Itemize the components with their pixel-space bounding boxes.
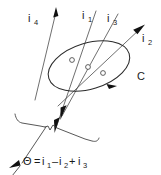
pierce-point-1	[70, 58, 75, 63]
equation-term1-base: i	[42, 155, 44, 167]
label-i4-base: i	[28, 12, 30, 24]
equation-term2-base: i	[59, 155, 61, 167]
ampere-law-figure: i 4 i 1 i 3 i 2 C Θ = i 1 – i 2 +	[0, 0, 161, 175]
equation-term1-sub: 1	[47, 161, 51, 170]
label-i4-sub: 4	[34, 18, 38, 27]
pierce-point-3	[101, 71, 106, 76]
wire-i4-arrowhead-icon	[53, 7, 58, 17]
wire-i2-line	[58, 28, 141, 106]
label-current-i3: i 3	[107, 12, 117, 27]
label-contour-C: C	[137, 70, 145, 82]
equation-op1: –	[52, 155, 59, 167]
label-current-i1: i 1	[82, 9, 92, 24]
label-i2-base: i	[142, 32, 144, 44]
label-current-i4: i 4	[28, 12, 38, 27]
equation-op2: +	[69, 155, 75, 167]
label-i2-sub: 2	[148, 38, 152, 47]
pierce-point-2	[86, 65, 91, 70]
wire-i3-arrowhead-icon	[60, 105, 66, 120]
label-i3-base: i	[107, 12, 109, 24]
equation-lhs: Θ	[23, 155, 32, 167]
surface-tear-notch	[45, 125, 99, 141]
label-i1-base: i	[82, 9, 84, 21]
surface-edge-upper-left	[15, 114, 45, 127]
wire-i2	[58, 25, 145, 107]
label-current-i2: i 2	[142, 32, 152, 47]
label-i1-sub: 1	[88, 15, 92, 24]
circulation-arrowhead-icon	[107, 84, 118, 89]
wire-i1-arrowhead-icon	[54, 117, 60, 133]
equation-term3-base: i	[78, 155, 80, 167]
figure-canvas: i 4 i 1 i 3 i 2 C Θ = i 1 – i 2 +	[0, 0, 161, 175]
equation-theta: Θ = i 1 – i 2 + i 3	[23, 155, 87, 170]
label-i3-sub: 3	[113, 18, 117, 27]
equation-equals: =	[34, 155, 40, 167]
wire-i1	[54, 11, 96, 133]
equation-term3-sub: 3	[83, 161, 87, 170]
surface-edge-lower-left-tail	[12, 166, 20, 175]
surface-normal-arrowhead-icon	[9, 160, 21, 168]
equation-term2-sub: 2	[64, 161, 68, 170]
